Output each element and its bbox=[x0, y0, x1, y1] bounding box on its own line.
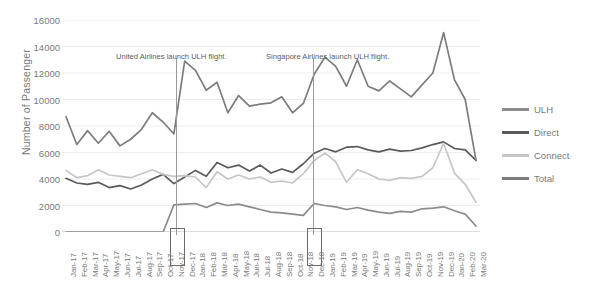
y-tick-label: 0 bbox=[55, 227, 60, 238]
x-tick-label: Nov-19 bbox=[436, 252, 445, 277]
x-tick-label: Apr-18 bbox=[231, 254, 240, 277]
x-tick-label: Jun-19 bbox=[382, 253, 391, 277]
highlight-box-nov-18 bbox=[307, 228, 322, 266]
x-tick-label: Jan-19 bbox=[328, 253, 337, 277]
x-axis: Jan-17Feb-17Mar-17Apr-17May-17Jun-17Jul-… bbox=[62, 233, 480, 281]
x-tick-label: Aug-19 bbox=[403, 252, 412, 277]
y-tick-label: 2000 bbox=[39, 200, 60, 211]
x-tick-label: Jul-18 bbox=[263, 256, 272, 277]
y-tick-label: 12000 bbox=[34, 68, 60, 79]
x-tick-label: Aug-17 bbox=[145, 252, 154, 277]
annotation-singapore-airlines: Singapore Airlines launch ULH flight. bbox=[266, 52, 389, 61]
x-tick-label: May-18 bbox=[242, 251, 251, 277]
x-tick-label: May-19 bbox=[371, 251, 380, 277]
x-tick-label: Dec-19 bbox=[447, 252, 456, 277]
legend-item-connect[interactable]: Connect bbox=[502, 144, 569, 167]
x-tick-label: Feb-17 bbox=[80, 252, 89, 277]
legend-item-total[interactable]: Total bbox=[502, 167, 569, 190]
x-tick-label: Feb-18 bbox=[209, 252, 218, 277]
annotation-united-airlines: United Airlines launch ULH flight. bbox=[116, 52, 227, 61]
annotation-line-united bbox=[176, 58, 177, 235]
x-tick-label: Jun-18 bbox=[252, 253, 261, 277]
legend-swatch bbox=[502, 131, 529, 134]
x-tick-label: Mar-19 bbox=[350, 252, 359, 277]
y-axis-title: Number of Passenger bbox=[20, 32, 32, 172]
legend-swatch bbox=[502, 108, 529, 111]
x-tick-label: Jan-18 bbox=[198, 253, 207, 277]
x-tick-label: Jun-17 bbox=[123, 253, 132, 277]
x-tick-label: Sep-18 bbox=[285, 252, 294, 277]
legend-label: Total bbox=[534, 173, 554, 184]
series-lines bbox=[66, 33, 476, 232]
x-tick-label: Apr-17 bbox=[101, 254, 110, 277]
y-tick-label: 14000 bbox=[34, 41, 60, 52]
legend-swatch bbox=[502, 177, 529, 180]
x-tick-label: Jul-19 bbox=[393, 256, 402, 277]
legend-item-direct[interactable]: Direct bbox=[502, 121, 569, 144]
x-tick-label: Mar-17 bbox=[91, 252, 100, 277]
highlight-box-oct-17 bbox=[170, 228, 185, 266]
y-tick-label: 10000 bbox=[34, 94, 60, 105]
x-tick-label: Aug-18 bbox=[274, 252, 283, 277]
x-tick-label: Feb-19 bbox=[339, 252, 348, 277]
x-tick-label: Mar-18 bbox=[220, 252, 229, 277]
x-tick-label: Jan-17 bbox=[69, 253, 78, 277]
x-tick-label: Oct-18 bbox=[296, 254, 305, 277]
x-tick-label: Dec-17 bbox=[188, 252, 197, 277]
legend-label: Direct bbox=[534, 127, 559, 138]
x-tick-label: Feb-20 bbox=[468, 252, 477, 277]
x-tick-label: Mar-20 bbox=[479, 252, 488, 277]
x-tick-label: Sep-17 bbox=[155, 252, 164, 277]
legend-item-ulh[interactable]: ULH bbox=[502, 98, 569, 121]
legend-label: Connect bbox=[534, 150, 569, 161]
annotation-line-singapore bbox=[313, 58, 314, 235]
x-tick-label: Apr-19 bbox=[360, 254, 369, 277]
y-axis: Number of Passenger 02000400060008000100… bbox=[0, 0, 60, 281]
y-tick-label: 6000 bbox=[39, 147, 60, 158]
x-tick-label: Jan-20 bbox=[457, 253, 466, 277]
passenger-line-chart: Number of Passenger 02000400060008000100… bbox=[0, 0, 591, 281]
y-tick-label: 4000 bbox=[39, 174, 60, 185]
x-tick-label: Sep-19 bbox=[414, 252, 423, 277]
x-tick-label: Jul-17 bbox=[134, 256, 143, 277]
y-tick-label: 16000 bbox=[34, 15, 60, 26]
x-tick-label: Oct-19 bbox=[425, 254, 434, 277]
series-line-ulh bbox=[66, 203, 476, 232]
legend: ULHDirectConnectTotal bbox=[502, 98, 569, 190]
legend-label: ULH bbox=[534, 104, 553, 115]
legend-swatch bbox=[502, 154, 529, 157]
x-tick-label: May-17 bbox=[112, 251, 121, 277]
y-tick-label: 8000 bbox=[39, 121, 60, 132]
